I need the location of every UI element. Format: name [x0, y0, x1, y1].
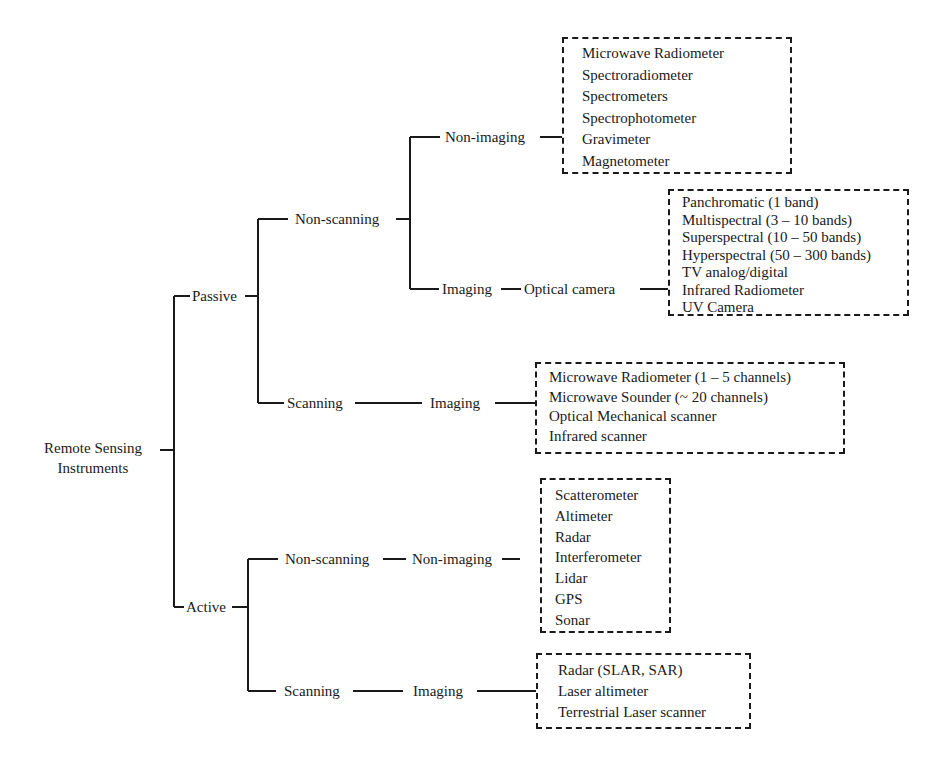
passive-non-imaging-instruments-box: Microwave Radiometer Spectroradiometer S…: [562, 37, 792, 174]
passive-node: Passive: [190, 287, 239, 305]
root-node: Remote Sensing Instruments: [42, 438, 144, 478]
passive-scanning-imaging-node: Imaging: [428, 394, 482, 412]
instrument-item: Infrared Radiometer: [682, 282, 907, 300]
instrument-item: Radar (SLAR, SAR): [558, 660, 749, 681]
instrument-item: Laser altimeter: [558, 681, 749, 702]
instrument-item: Spectrometers: [582, 86, 790, 108]
instrument-item: Multispectral (3 – 10 bands): [682, 212, 907, 230]
instrument-item: Terrestrial Laser scanner: [558, 702, 749, 723]
active-non-imaging-node: Non-imaging: [410, 550, 494, 568]
root-label-line1: Remote Sensing: [44, 440, 142, 456]
instrument-item: Microwave Sounder (~ 20 channels): [549, 388, 843, 408]
passive-imaging-node: Imaging: [440, 280, 494, 298]
passive-scanning-instruments-box: Microwave Radiometer (1 – 5 channels) Mi…: [535, 362, 845, 454]
active-scanning-imaging-node: Imaging: [411, 682, 465, 700]
instrument-item: Spectroradiometer: [582, 65, 790, 87]
instrument-item: Hyperspectral (50 – 300 bands): [682, 247, 907, 265]
instrument-item: GPS: [555, 589, 669, 610]
passive-scanning-node: Scanning: [285, 394, 345, 412]
instrument-item: Optical Mechanical scanner: [549, 407, 843, 427]
active-non-scanning-node: Non-scanning: [283, 550, 371, 568]
instrument-item: Sonar: [555, 610, 669, 631]
instrument-item: Infrared scanner: [549, 427, 843, 447]
instrument-item: Lidar: [555, 568, 669, 589]
active-non-imaging-instruments-box: Scatterometer Altimeter Radar Interferom…: [540, 478, 671, 633]
active-scanning-node: Scanning: [282, 682, 342, 700]
optical-camera-instruments-box: Panchromatic (1 band) Multispectral (3 –…: [668, 189, 909, 316]
passive-non-imaging-node: Non-imaging: [443, 128, 527, 146]
instrument-item: Panchromatic (1 band): [682, 194, 907, 212]
root-label-line2: Instruments: [58, 460, 129, 476]
optical-camera-node: Optical camera: [522, 280, 617, 298]
instrument-item: Gravimeter: [582, 129, 790, 151]
instrument-item: Altimeter: [555, 506, 669, 527]
instrument-item: TV analog/digital: [682, 264, 907, 282]
instrument-item: Scatterometer: [555, 485, 669, 506]
instrument-item: Microwave Radiometer: [582, 43, 790, 65]
instrument-item: Radar: [555, 527, 669, 548]
passive-non-scanning-node: Non-scanning: [293, 210, 381, 228]
instrument-item: Magnetometer: [582, 151, 790, 173]
instrument-item: Superspectral (10 – 50 bands): [682, 229, 907, 247]
instrument-item: UV Camera: [682, 299, 907, 317]
active-node: Active: [184, 598, 228, 616]
instrument-item: Spectrophotometer: [582, 108, 790, 130]
instrument-item: Microwave Radiometer (1 – 5 channels): [549, 368, 843, 388]
active-scanning-instruments-box: Radar (SLAR, SAR) Laser altimeter Terres…: [536, 653, 751, 729]
instrument-item: Interferometer: [555, 547, 669, 568]
